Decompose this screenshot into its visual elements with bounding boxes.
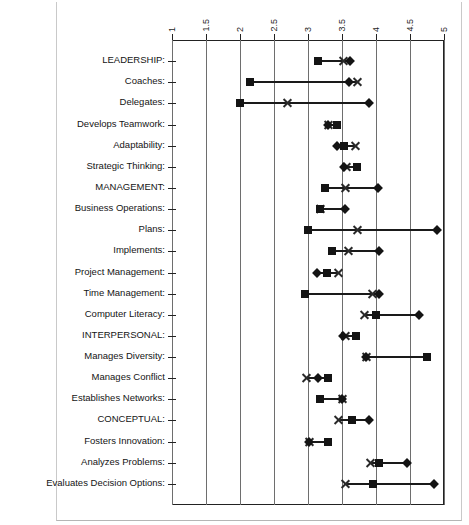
y-axis-category-label: MANAGEMENT: <box>95 182 165 192</box>
x-axis-tick-label-text: 2.5 <box>270 19 279 32</box>
competency-rating-chart: 11.522.533.544.55LEADERSHIP:Coaches:Dele… <box>0 0 469 525</box>
square-marker <box>246 78 254 86</box>
x-axis-tick-label-text: 1 <box>168 27 177 32</box>
y-axis-category-label: Adaptability: <box>113 140 165 150</box>
x-axis-tick <box>206 34 207 40</box>
y-axis-category-label: INTERPERSONAL: <box>82 330 165 340</box>
y-axis-tick <box>168 463 176 464</box>
x-marker <box>333 415 344 426</box>
square-marker <box>316 205 324 213</box>
y-axis-tick <box>168 167 176 168</box>
square-marker <box>304 226 312 234</box>
y-axis-category-label: Manages Conflict <box>92 372 165 382</box>
x-marker <box>301 373 312 384</box>
range-connector-line <box>366 356 427 358</box>
x-gridline <box>410 40 411 505</box>
y-axis-category-label: Delegates: <box>120 97 165 107</box>
range-connector-line <box>325 187 378 189</box>
range-connector-line <box>332 250 380 252</box>
y-axis-tick <box>168 399 176 400</box>
square-marker <box>324 438 332 446</box>
x-axis-tick <box>410 34 411 40</box>
square-marker <box>340 142 348 150</box>
x-marker <box>359 309 370 320</box>
y-axis-category-label: Develops Teamwork: <box>77 119 165 129</box>
x-axis-tick-label-text: 1.5 <box>202 19 211 32</box>
y-axis-category-label: Strategic Thinking: <box>86 161 165 171</box>
x-marker <box>365 457 376 468</box>
y-axis-tick <box>168 209 176 210</box>
square-marker <box>352 332 360 340</box>
x-axis-tick <box>240 34 241 40</box>
x-marker <box>343 246 354 257</box>
x-axis-tick-label-text: 3 <box>304 27 313 32</box>
square-marker <box>328 247 336 255</box>
y-axis-tick <box>168 294 176 295</box>
y-axis-category-label: Fosters Innovation: <box>84 436 165 446</box>
y-axis-tick <box>168 273 176 274</box>
x-gridline <box>376 40 377 505</box>
x-axis-tick <box>274 34 275 40</box>
y-axis-category-label: Plans: <box>139 224 165 234</box>
y-axis-tick <box>168 251 176 252</box>
square-marker <box>375 459 383 467</box>
x-marker <box>282 98 293 109</box>
y-axis-category-label: Time Management: <box>84 288 166 298</box>
x-marker <box>351 225 362 236</box>
y-axis-tick <box>168 146 176 147</box>
y-axis-category-label: Coaches: <box>125 76 165 86</box>
square-marker <box>353 163 361 171</box>
x-axis-tick-label-text: 3.5 <box>338 19 347 32</box>
range-connector-line <box>240 102 369 104</box>
square-marker <box>369 480 377 488</box>
y-axis-category-label: Analyzes Problems: <box>81 457 165 467</box>
y-axis-tick <box>168 336 176 337</box>
y-axis-tick <box>168 82 176 83</box>
x-gridline <box>240 40 241 505</box>
y-axis-tick <box>168 188 176 189</box>
x-axis-tick-label-text: 4 <box>372 27 381 32</box>
y-axis-tick <box>168 61 176 62</box>
x-gridline <box>444 40 445 505</box>
y-axis-tick <box>168 103 176 104</box>
range-connector-line <box>345 483 433 485</box>
x-marker <box>333 267 344 278</box>
x-axis-tick <box>444 34 445 40</box>
square-marker <box>301 290 309 298</box>
y-axis-category-label: Manages Diversity: <box>84 351 165 361</box>
y-axis-tick <box>168 484 176 485</box>
plot-area: 11.522.533.544.55LEADERSHIP:Coaches:Dele… <box>172 40 444 505</box>
y-axis-tick <box>168 378 176 379</box>
x-marker <box>340 182 351 193</box>
y-axis-tick <box>168 125 176 126</box>
x-marker <box>340 478 351 489</box>
square-marker <box>321 184 329 192</box>
square-marker <box>314 57 322 65</box>
y-axis-category-label: CONCEPTUAL: <box>97 414 165 424</box>
square-marker <box>324 374 332 382</box>
y-axis-tick <box>168 442 176 443</box>
square-marker <box>348 416 356 424</box>
square-marker <box>323 269 331 277</box>
y-axis-category-label: Business Operations: <box>75 203 165 213</box>
y-axis-category-label: Establishes Networks: <box>72 393 165 403</box>
square-marker <box>372 311 380 319</box>
range-connector-line <box>308 229 437 231</box>
y-axis-tick <box>168 357 176 358</box>
x-gridline <box>206 40 207 505</box>
y-axis-category-label: Implements: <box>113 245 165 255</box>
square-marker <box>236 99 244 107</box>
x-marker <box>350 140 361 151</box>
x-axis-tick-label-text: 2 <box>236 27 245 32</box>
x-axis-tick <box>376 34 377 40</box>
y-axis-category-label: Evaluates Decision Options: <box>46 478 165 488</box>
y-axis-tick <box>168 230 176 231</box>
range-connector-line <box>250 81 357 83</box>
square-marker <box>333 121 341 129</box>
x-axis-tick <box>308 34 309 40</box>
square-marker <box>423 353 431 361</box>
x-gridline <box>274 40 275 505</box>
square-marker <box>316 395 324 403</box>
y-axis-tick <box>168 315 176 316</box>
y-axis-category-label: Project Management: <box>75 267 165 277</box>
